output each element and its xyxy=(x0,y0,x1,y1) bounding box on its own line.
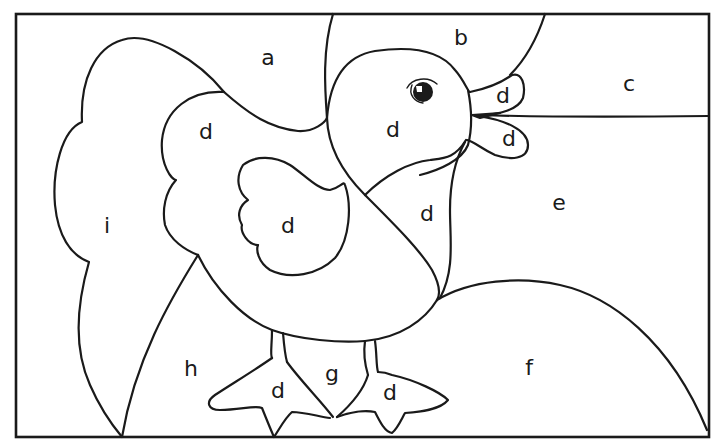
left-foot-outline xyxy=(209,358,330,437)
sky-divider-b-c xyxy=(510,14,545,75)
region-label-d-right-foot: d xyxy=(383,382,397,404)
region-label-e: e xyxy=(552,192,566,214)
body-outline xyxy=(198,255,437,342)
left-leg xyxy=(271,330,272,358)
sky-divider-c-e xyxy=(480,115,709,117)
beak-lower-outline xyxy=(467,116,528,158)
region-label-g: g xyxy=(325,363,339,385)
hill-outline xyxy=(437,280,707,430)
bush-outline xyxy=(54,38,224,437)
right-leg xyxy=(364,341,368,375)
region-label-c: c xyxy=(623,73,635,95)
region-label-d-chest: d xyxy=(420,203,434,225)
chest-right-line xyxy=(440,142,465,298)
region-label-d-left-foot: d xyxy=(271,380,285,402)
leg-inner-left xyxy=(283,333,287,362)
back-curve xyxy=(224,92,327,131)
region-label-f: f xyxy=(525,357,533,379)
region-label-h: h xyxy=(184,358,198,380)
ground-divider-h-i xyxy=(122,255,198,437)
region-label-a: a xyxy=(261,47,274,69)
region-label-i: i xyxy=(104,215,110,237)
region-label-d-back-wing: d xyxy=(199,121,213,143)
back-wing-outline xyxy=(162,92,224,255)
region-label-d-head: d xyxy=(386,119,400,141)
region-label-b: b xyxy=(454,27,468,49)
eye-highlight xyxy=(416,86,422,92)
region-label-d-beak-lower: d xyxy=(502,128,516,150)
head-outline xyxy=(327,49,470,118)
head-front-outline xyxy=(420,90,471,175)
leg-inner-right xyxy=(375,341,378,372)
region-label-d-beak-upper: d xyxy=(496,85,510,107)
region-label-d-wing: d xyxy=(281,215,295,237)
picture-frame xyxy=(16,14,709,437)
eye-icon xyxy=(413,82,433,102)
